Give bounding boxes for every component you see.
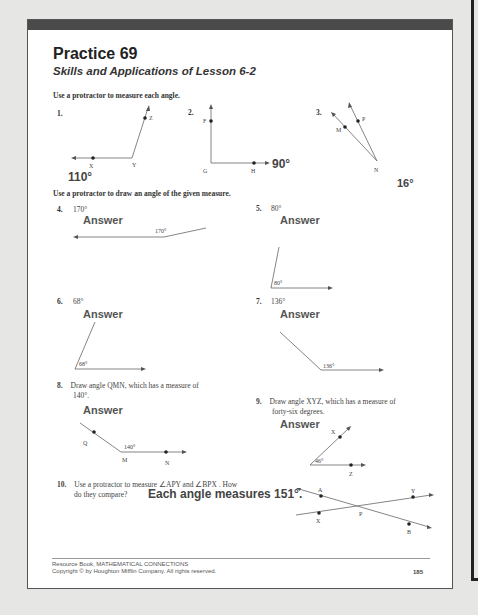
problem-2-number: 2.	[188, 108, 194, 117]
problem-4-angle-figure: 170°	[73, 225, 223, 255]
problem-9-number: 9.	[256, 397, 262, 406]
point-X-label: X	[316, 518, 321, 524]
point-Y-label: Y	[132, 162, 137, 168]
problem-5-measure: 80°	[271, 204, 282, 213]
scan-edge-rule	[471, 0, 474, 581]
problem-10-number: 10.	[57, 480, 66, 489]
footer-resource-line: Resource Book, MATHEMATICAL CONNECTIONS	[52, 561, 216, 568]
problem-2-answer: 90°	[272, 157, 290, 171]
problem-3-answer: 16°	[397, 177, 414, 189]
point-X-label: X	[89, 163, 94, 169]
page-subtitle: Skills and Applications of Lesson 6-2	[53, 65, 256, 77]
footer-copyright-line: Copyright © by Houghton Mifflin Company.…	[52, 568, 216, 575]
problem-5-angle-label: 80°	[274, 280, 283, 286]
section1-instruction: Use a protractor to measure each angle.	[53, 91, 180, 100]
point-M-label: M	[122, 457, 128, 463]
problem-4-angle-label: 170°	[155, 228, 167, 234]
problem-8-angle-figure: Q M N 140°	[78, 420, 198, 480]
problem-7-number: 7.	[256, 297, 262, 306]
problem-1-number: 1.	[57, 109, 63, 118]
header-band	[28, 20, 452, 30]
problem-5-number: 5.	[256, 204, 262, 213]
problem-8-angle-label: 140°	[124, 444, 136, 450]
problem-8-number: 8.	[57, 381, 63, 390]
point-X-label: X	[331, 429, 336, 435]
section2-instruction: Use a protractor to draw an angle of the…	[53, 189, 231, 198]
problem-2-angle-figure: F G H	[198, 104, 298, 184]
problem-9-angle-label: 46°	[315, 458, 324, 464]
problem-8-text: 8. Draw angle QMN, which has a measure o…	[57, 381, 199, 401]
point-P-label: P	[362, 116, 366, 122]
point-M-label: M	[336, 127, 342, 133]
problem-1-answer: 110°	[68, 170, 92, 184]
problem-8-answer-label: Answer	[83, 404, 123, 416]
problem-6-angle-figure: 68°	[73, 320, 163, 375]
problem-6-answer-label: Answer	[83, 308, 123, 320]
footer-rule	[52, 558, 430, 559]
problem-4-measure: 170°	[73, 205, 87, 214]
scan-edge-rule-foot	[471, 578, 478, 581]
problem-6-measure: 68°	[73, 297, 84, 306]
point-H-label: H	[251, 168, 256, 174]
problem-5-angle-figure: 80°	[266, 245, 346, 295]
problem-7-measure: 136°	[271, 297, 285, 306]
point-Q-label: Q	[83, 440, 88, 446]
point-N-label: N	[374, 167, 379, 173]
problem-4-number: 4.	[57, 205, 63, 214]
problem-9-angle-figure: X Z 46°	[306, 425, 386, 480]
page-title: Practice 69	[53, 45, 138, 63]
point-Z-label: Z	[149, 115, 153, 121]
point-A-label: A	[318, 487, 323, 493]
point-B-label: B	[407, 529, 411, 535]
point-Y-label: Y	[411, 488, 416, 494]
point-P-label: P	[359, 511, 363, 517]
problem-3-number: 3.	[316, 108, 322, 117]
problem-7-angle-figure: 136°	[278, 330, 388, 380]
problem-3-angle-figure: M N P	[328, 104, 408, 174]
problem-6-number: 6.	[57, 297, 63, 306]
point-F-label: F	[203, 118, 207, 124]
point-Z-label: Z	[349, 471, 353, 477]
page-number: 185	[413, 569, 423, 575]
worksheet-page: Practice 69 Skills and Applications of L…	[27, 19, 453, 589]
problem-9-text: 9. Draw angle XYZ, which has a measure o…	[256, 397, 396, 417]
point-G-label: G	[203, 168, 208, 174]
problem-10-intersecting-lines-figure: A Y P X B	[296, 485, 436, 545]
problem-10-answer: Each angle measures 151°.	[148, 487, 302, 501]
point-N-label: N	[165, 460, 170, 466]
problem-7-angle-label: 136°	[323, 363, 335, 369]
problem-6-angle-label: 68°	[79, 361, 88, 367]
problem-5-answer-label: Answer	[280, 214, 320, 226]
problem-7-answer-label: Answer	[280, 308, 320, 320]
footer-credits: Resource Book, MATHEMATICAL CONNECTIONS …	[52, 561, 216, 575]
